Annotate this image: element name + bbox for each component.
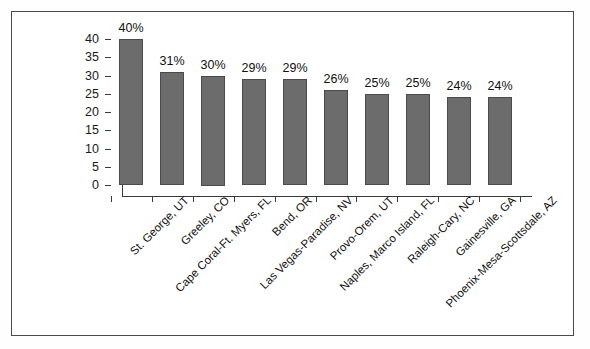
bar bbox=[488, 97, 512, 185]
x-axis-tick bbox=[397, 196, 398, 202]
bar bbox=[365, 94, 389, 185]
y-axis-tick-label: 15 bbox=[65, 124, 99, 137]
bar-value-label: 25% bbox=[396, 77, 440, 90]
y-axis-tick-label: 5 bbox=[65, 161, 99, 174]
bar bbox=[242, 79, 266, 185]
y-axis-tick bbox=[105, 130, 111, 131]
bar bbox=[447, 97, 471, 185]
y-axis-tick bbox=[105, 57, 111, 58]
bar bbox=[283, 79, 307, 185]
x-axis-tick bbox=[111, 196, 112, 202]
x-axis-tick bbox=[275, 196, 276, 202]
y-axis-tick bbox=[105, 167, 111, 168]
y-axis-tick bbox=[105, 149, 111, 150]
y-axis-tick-label: 25 bbox=[65, 88, 99, 101]
figure-frame: 0510152025303540 40%31%30%29%29%26%25%25… bbox=[11, 11, 574, 336]
bar bbox=[160, 72, 184, 185]
x-axis-tick bbox=[479, 196, 480, 202]
x-axis-category-label: St. George, UT bbox=[128, 194, 191, 257]
y-axis-tick bbox=[105, 185, 111, 186]
bar-value-label: 31% bbox=[150, 55, 194, 68]
y-axis-tick-label: 10 bbox=[65, 143, 99, 156]
y-axis-tick bbox=[105, 76, 111, 77]
x-axis-tick bbox=[234, 196, 235, 202]
bar-value-label: 40% bbox=[109, 22, 153, 35]
x-axis-tick bbox=[152, 196, 153, 202]
y-axis-tick-label: 40 bbox=[65, 33, 99, 46]
bar bbox=[119, 39, 143, 185]
y-axis-tick-label: 35 bbox=[65, 51, 99, 64]
bar bbox=[406, 94, 430, 185]
y-axis-tick bbox=[105, 112, 111, 113]
x-axis-tick bbox=[316, 196, 317, 202]
x-axis-tick bbox=[356, 196, 357, 202]
x-axis-tick bbox=[193, 196, 194, 202]
y-axis-tick-label: 0 bbox=[65, 179, 99, 192]
bar-value-label: 25% bbox=[355, 77, 399, 90]
bar bbox=[201, 76, 225, 186]
bar bbox=[324, 90, 348, 185]
chart-root: 0510152025303540 40%31%30%29%29%26%25%25… bbox=[0, 0, 590, 349]
x-axis-tick bbox=[438, 196, 439, 202]
bar-value-label: 24% bbox=[478, 80, 522, 93]
y-axis-tick bbox=[105, 94, 111, 95]
bar-value-label: 26% bbox=[314, 73, 358, 86]
x-axis-tick bbox=[520, 196, 521, 202]
y-axis-tick-label: 20 bbox=[65, 106, 99, 119]
bar-value-label: 24% bbox=[437, 80, 481, 93]
y-axis-tick bbox=[105, 39, 111, 40]
bar-value-label: 30% bbox=[191, 59, 235, 72]
y-axis-tick-label: 30 bbox=[65, 70, 99, 83]
bar-value-label: 29% bbox=[232, 62, 276, 75]
bar-value-label: 29% bbox=[273, 62, 317, 75]
